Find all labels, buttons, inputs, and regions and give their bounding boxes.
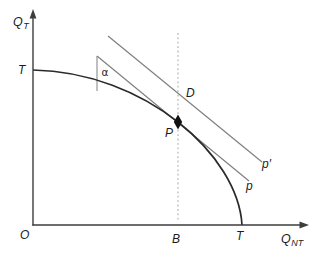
price-line-p-prime — [108, 36, 262, 162]
alpha-label: α — [102, 66, 109, 78]
ppf-diagram: QT T α D P p′ p O B T QNT — [0, 0, 324, 257]
x-axis-arrow-icon — [300, 222, 310, 229]
x-axis-label: QNT — [281, 232, 305, 248]
y-axis-arrow-icon — [30, 9, 37, 19]
y-axis-label: QT — [13, 15, 30, 31]
y-axis-label-base: Q — [13, 15, 23, 29]
price-line-p-label: p — [245, 179, 253, 193]
origin-label: O — [20, 228, 29, 242]
x-axis-label-base: Q — [281, 232, 291, 246]
point-b-label: B — [172, 232, 180, 246]
point-p-marker — [174, 115, 182, 130]
ppf-curve — [33, 70, 242, 225]
point-p-label: P — [165, 126, 173, 140]
t-horizontal-label: T — [236, 229, 245, 243]
t-vertical-label: T — [18, 63, 27, 77]
y-axis-label-sub: T — [23, 21, 30, 31]
price-line-p-prime-label: p′ — [261, 157, 272, 171]
x-axis-label-sub: NT — [291, 238, 304, 248]
point-d-label: D — [186, 86, 195, 100]
diagram-canvas: QT T α D P p′ p O B T QNT — [0, 0, 324, 257]
